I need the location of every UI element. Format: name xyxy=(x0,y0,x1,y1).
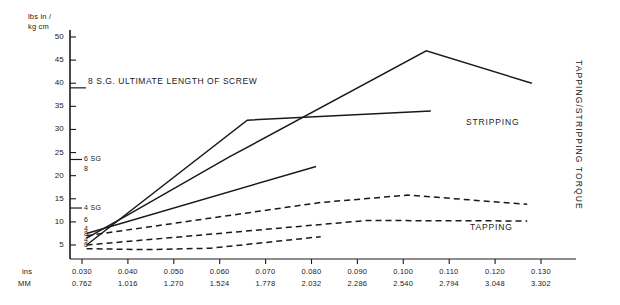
chart-canvas xyxy=(0,0,620,305)
chart-figure: lbs in /kg cm 5101520253035404550 0.0300… xyxy=(0,0,620,305)
series-line xyxy=(87,51,532,238)
series-line xyxy=(87,221,528,245)
chart-series-lines xyxy=(87,51,532,250)
series-line xyxy=(87,237,321,250)
series-line xyxy=(87,166,317,233)
chart-axes xyxy=(70,30,576,264)
series-line xyxy=(87,111,431,245)
